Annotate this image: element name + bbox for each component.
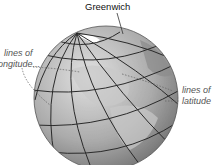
latitude-label-line1: lines of	[182, 85, 211, 95]
globe-diagram	[0, 0, 212, 165]
latitude-label-line2: latitude	[182, 96, 211, 106]
longitude-label-line1: lines of	[4, 48, 33, 58]
greenwich-label: Greenwich	[85, 1, 130, 12]
longitude-label-line2: longitude...	[0, 59, 40, 69]
